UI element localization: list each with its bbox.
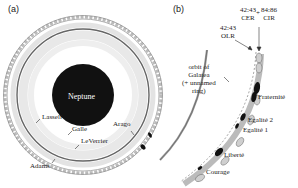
- neptune-rings-figure: (a) (b) Neptune Lassell Galle LeVerrier …: [0, 0, 298, 188]
- arc-label-egalite-2: Egalité 2: [248, 117, 273, 124]
- ring-diagram-graphic: [0, 0, 298, 188]
- panel-label-b: (b): [173, 4, 184, 14]
- arc-label-egalite-1: Egalité 1: [243, 127, 268, 134]
- planet-label: Neptune: [68, 92, 95, 101]
- ring-label-adams: Adams: [30, 163, 50, 170]
- label-olr: 42:43 OLR: [220, 24, 236, 40]
- ring-label-leverrier: LeVerrier: [81, 138, 108, 145]
- arc-label-liberte: Liberté: [224, 152, 244, 159]
- ring-label-arago: Arago: [113, 121, 131, 128]
- ring-label-lassell: Lassell: [42, 114, 62, 121]
- ring-label-galle: Galle: [72, 126, 87, 133]
- label-galatea-orbit: orbit of Galatea (+ unnamed ring): [182, 63, 216, 95]
- arc-label-courage: Courage: [206, 169, 230, 176]
- label-cer: 42:43 CER: [240, 6, 256, 22]
- panel-label-a: (a): [8, 4, 19, 14]
- label-cir: 84:86 CIR: [261, 6, 277, 22]
- label-plus: +: [256, 10, 260, 17]
- arc-label-fraternite: Fraternité: [258, 94, 285, 101]
